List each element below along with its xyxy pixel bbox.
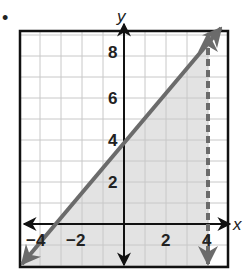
problem-marker: • [2, 8, 8, 28]
y-tick-4: 4 [108, 131, 118, 150]
y-axis-label: y [116, 7, 127, 26]
y-tick-8: 8 [108, 43, 117, 62]
x-tick-4: 4 [202, 231, 212, 250]
x-axis-label: x [232, 215, 242, 234]
graph-canvas: • [0, 0, 248, 275]
x-tick-neg4: −4 [26, 231, 46, 250]
y-tick-2: 2 [108, 173, 117, 192]
x-tick-2: 2 [161, 231, 170, 250]
x-tick-neg2: −2 [66, 231, 85, 250]
y-tick-6: 6 [108, 89, 117, 108]
